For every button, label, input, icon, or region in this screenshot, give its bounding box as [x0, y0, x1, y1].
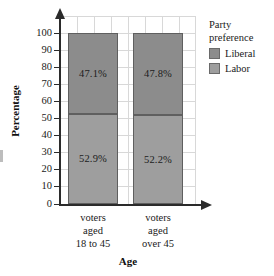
bar-segment-liberal: 47.8%: [133, 33, 183, 115]
gridline-horizontal: [60, 16, 196, 17]
y-tick-label: 20: [26, 164, 52, 174]
bar-segment-labor: 52.2%: [133, 115, 183, 204]
category-line: over 45: [115, 237, 201, 250]
y-tick-mark: [54, 152, 60, 153]
y-axis-line: [59, 18, 61, 205]
y-tick-label: 0: [26, 199, 52, 209]
y-tick-mark: [54, 135, 60, 136]
bar-segment-label-liberal: 47.8%: [144, 68, 172, 79]
y-tick-label: 50: [26, 113, 52, 123]
y-axis-tick-labels: 100 90 80 70 60 50 40 30 20 10 0: [22, 0, 52, 276]
gridline-vertical: [195, 16, 196, 205]
y-tick-mark: [54, 169, 60, 170]
legend-label-liberal: Liberal: [225, 48, 255, 59]
y-tick-label: 70: [26, 79, 52, 89]
gridline-vertical: [128, 16, 129, 205]
legend: Party preference Liberal Labor: [209, 18, 274, 74]
y-tick-mark: [54, 84, 60, 85]
y-tick-mark: [54, 204, 60, 205]
y-tick-mark: [54, 50, 60, 51]
bar-segment-label-labor: 52.9%: [79, 153, 107, 164]
x-axis-line: [59, 204, 204, 206]
legend-swatch-liberal: [209, 48, 220, 59]
y-axis-arrow-icon: [55, 8, 65, 19]
legend-title: Party preference: [209, 18, 274, 44]
legend-label-labor: Labor: [225, 63, 250, 74]
legend-title-line: Party: [209, 18, 274, 31]
y-tick-label: 30: [26, 147, 52, 157]
y-tick-label: 90: [26, 45, 52, 55]
bar-segment-label-labor: 52.2%: [144, 154, 172, 165]
x-axis-arrow-icon: [201, 200, 212, 210]
x-axis-title: Age: [60, 255, 196, 267]
category-line: voters: [115, 211, 201, 224]
y-axis-title: Percentage: [9, 51, 21, 171]
y-tick-mark: [54, 33, 60, 34]
plot-area: 47.1% 52.9% 47.8% 52.2%: [60, 16, 196, 205]
y-tick-label: 80: [26, 62, 52, 72]
bar-voters-18-to-45: 47.1% 52.9%: [68, 33, 118, 204]
y-tick-label: 40: [26, 130, 52, 140]
x-category-label-over-45: voters aged over 45: [115, 211, 201, 250]
page-edge-artifact: [0, 150, 3, 162]
legend-swatch-labor: [209, 63, 220, 74]
legend-item-labor[interactable]: Labor: [209, 63, 274, 74]
legend-title-line: preference: [209, 31, 274, 44]
y-tick-mark: [54, 186, 60, 187]
legend-item-liberal[interactable]: Liberal: [209, 48, 274, 59]
bar-segment-labor: 52.9%: [68, 114, 118, 205]
y-tick-label: 60: [26, 96, 52, 106]
category-line: aged: [115, 224, 201, 237]
y-tick-label: 100: [26, 28, 52, 38]
bar-segment-liberal: 47.1%: [68, 33, 118, 114]
bar-voters-over-45: 47.8% 52.2%: [133, 33, 183, 204]
bar-segment-label-liberal: 47.1%: [79, 68, 107, 79]
y-tick-label: 10: [26, 181, 52, 191]
stacked-bar-chart: 47.1% 52.9% 47.8% 52.2% 100 90: [0, 0, 274, 276]
y-tick-mark: [54, 67, 60, 68]
y-tick-mark: [54, 101, 60, 102]
y-tick-mark: [54, 118, 60, 119]
